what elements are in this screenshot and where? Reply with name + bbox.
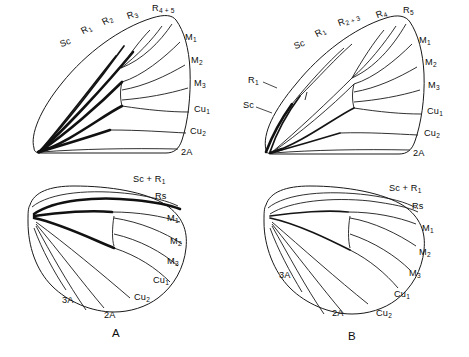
label-b-hind-cu1: Cu1: [394, 290, 410, 299]
label-b-fore-r5: R5: [403, 6, 414, 15]
label-a-hind-sc-r1: Sc + R1: [133, 175, 165, 184]
vein-b-hind-m3: [350, 250, 398, 288]
wing-a-forewing: [33, 16, 190, 153]
wing-b-forewing: [265, 16, 424, 154]
vein-a-fore-2a: [41, 149, 178, 152]
vein-a-hind-2a: [36, 226, 86, 310]
label-a-hind-m3: M3: [167, 257, 179, 266]
vein-b-hind-m2: [350, 234, 410, 270]
vein-a-fore-cu1: [122, 106, 189, 112]
label-b-hind-m3: M3: [409, 269, 421, 278]
vein-a-fore-m1: [122, 42, 180, 82]
label-a-fore-m1: M1: [185, 33, 197, 42]
vein-b-fore-cell-crossvein: [353, 84, 355, 108]
vein-a-fore-m2: [122, 65, 185, 90]
label-a-hind-m1: M1: [167, 214, 179, 223]
label-b-fore-m3: M3: [428, 81, 440, 90]
label-b-hind-m2: M2: [419, 248, 431, 257]
label-a-hind-rs: Rs: [155, 192, 166, 201]
vein-b-fore-cu1: [354, 108, 421, 114]
label-b-fore-m1: M1: [419, 36, 431, 45]
wing-a-hindwing: [28, 186, 186, 312]
vein-a-fore-r3: [121, 26, 162, 68]
leader-b-fore-sc: [256, 107, 272, 113]
vein-b-fore-m3: [354, 90, 420, 102]
label-a-hind-3a: 3A: [62, 296, 73, 305]
label-a-fore-m3: M3: [194, 79, 206, 88]
label-a-fore-2a: 2A: [181, 148, 192, 157]
vein-b-fore-cu2: [340, 133, 418, 135]
label-b-hind-rs: Rs: [412, 202, 423, 211]
label-a-hind-cu1: Cu1: [153, 276, 169, 285]
vein-a-fore-cell-crossvein: [121, 82, 123, 106]
label-b-hind-m1: M1: [422, 224, 434, 233]
vein-b-fore-2a: [273, 150, 410, 153]
vein-b-fore-r23: [352, 30, 384, 78]
vein-b-hind-rs: [348, 212, 416, 224]
label-b-fore-r1-base: R1: [248, 76, 259, 85]
vein-a-hind-cell-crossvein: [113, 216, 115, 246]
label-a-hind-cu2: Cu2: [134, 293, 150, 302]
vein-b-fore-m1: [354, 44, 412, 84]
vein-b-hind-rs-stem: [270, 211, 348, 216]
leader-b-fore-r1: [263, 82, 277, 88]
label-a-fore-r45: R4 + 5: [152, 4, 174, 13]
vein-b-hind-m-stem: [270, 218, 350, 250]
label-b-fore-sc-base: Sc: [243, 101, 254, 110]
label-b-hind-2a: 2A: [332, 309, 343, 318]
vein-b-hind-3a: [270, 228, 302, 292]
label-b-hind-cu2: Cu2: [376, 309, 392, 318]
label-b-fore-cu1: Cu1: [427, 107, 443, 116]
label-b-hind-sc-r1: Sc + R1: [389, 184, 421, 193]
vein-a-hind-3a: [34, 228, 66, 290]
label-b-hind-3a: 3A: [279, 271, 290, 280]
vein-a-hind-rs-stem: [34, 211, 112, 216]
label-a-hind-m2: M2: [170, 237, 182, 246]
label-b-fore-m2: M2: [425, 58, 437, 67]
panel-letter-b: B: [348, 330, 356, 342]
label-a-fore-cu2: Cu2: [190, 127, 206, 136]
vein-b-fore-crossvein-basal: [305, 92, 307, 100]
label-a-hind-2a: 2A: [104, 311, 115, 320]
vein-a-fore-m3: [122, 88, 188, 100]
vein-b-fore-m2: [354, 67, 417, 92]
figure-root: Sc R1 R2 R3 R4 + 5 M1 M2 M3 Cu1 Cu2 2A S…: [0, 0, 469, 357]
vein-b-hind-cu1: [272, 222, 368, 304]
vein-b-hind-cu2: [272, 224, 344, 314]
vein-b-hind-m1: [350, 218, 416, 246]
vein-a-fore-sc: [39, 56, 116, 152]
label-a-fore-m2: M2: [191, 56, 203, 65]
vein-a-fore-cu2: [110, 130, 186, 133]
vein-b-fore-r4: [352, 26, 396, 78]
vein-b-hind-cell-crossvein: [349, 216, 351, 248]
panel-letter-a: A: [112, 327, 120, 339]
label-b-fore-cu2: Cu2: [424, 129, 440, 138]
vein-a-hind-cu1: [36, 222, 130, 298]
vein-b-fore-sc-basal: [266, 104, 292, 152]
label-a-fore-cu1: Cu1: [194, 105, 210, 114]
label-b-fore-2a: 2A: [413, 149, 424, 158]
